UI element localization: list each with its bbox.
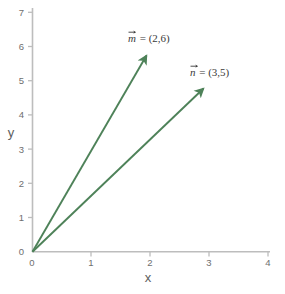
x-tick-label-1: 1	[88, 257, 93, 268]
y-tick-label-4: 4	[19, 109, 24, 120]
vector-m	[33, 56, 147, 252]
y-tick-label-2: 2	[19, 178, 24, 189]
vector-plot-figure: 7 6 5 4 3 2 1 0 0 1 2 3 4 x y	[0, 0, 285, 294]
y-axis-title: y	[8, 125, 15, 140]
vector-n-label-text: n = (3,5)	[190, 66, 230, 79]
y-tick-label-1: 1	[19, 212, 24, 223]
vector-n-shaft	[33, 89, 204, 252]
vector-m-shaft	[33, 56, 147, 252]
x-tick-label-2: 2	[147, 257, 152, 268]
vector-m-label-text: m = (2,6)	[128, 32, 170, 45]
y-axis-tick-labels: 7 6 5 4 3 2 1 0	[19, 7, 24, 257]
x-axis-tick-labels: 0 1 2 3 4	[29, 257, 270, 268]
vector-n-symbol: n	[190, 66, 196, 78]
vector-m-label-rest: = (2,6)	[140, 32, 170, 45]
x-tick-label-0: 0	[29, 257, 34, 268]
axis-lines	[32, 8, 270, 252]
y-tick-label-0: 0	[19, 246, 24, 257]
vector-n	[33, 89, 204, 252]
vector-m-symbol: m	[128, 32, 136, 44]
vector-m-label: m = (2,6)	[128, 31, 170, 45]
y-tick-label-5: 5	[19, 75, 24, 86]
x-tick-label-4: 4	[265, 257, 270, 268]
y-tick-label-6: 6	[19, 41, 24, 52]
y-tick-label-7: 7	[19, 7, 24, 18]
x-tick-label-3: 3	[206, 257, 211, 268]
coordinate-plane-svg: 7 6 5 4 3 2 1 0 0 1 2 3 4 x y	[0, 0, 285, 294]
y-tick-label-3: 3	[19, 144, 24, 155]
vector-n-label-rest: = (3,5)	[199, 66, 229, 79]
vector-n-label: n = (3,5)	[190, 65, 230, 79]
x-axis-title: x	[145, 270, 152, 285]
